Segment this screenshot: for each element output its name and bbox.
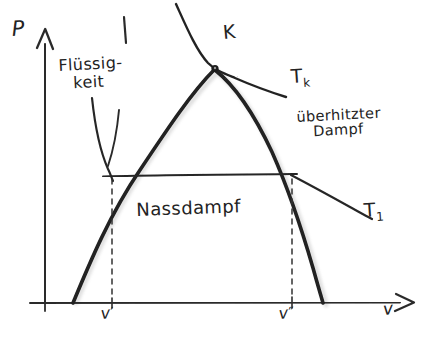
liquid-label-pointer xyxy=(108,17,126,166)
region-label-liquid: Flüssig- keit xyxy=(58,55,124,93)
isotherm-label-tk-subscript: k xyxy=(303,75,311,89)
saturated-vapor-line xyxy=(215,70,323,303)
isotherm-label-t1-subscript: 1 xyxy=(376,209,385,224)
y-axis-label: P xyxy=(11,17,26,40)
y-axis xyxy=(37,29,53,303)
pv-diagram: P v Flüssig- keit K Tk überhitzter Dampf… xyxy=(0,0,424,350)
isotherm-horizontal-segment xyxy=(103,174,297,177)
region-label-wet-steam: Nassdampf xyxy=(136,196,241,219)
region-label-liquid-line2: keit xyxy=(73,73,124,93)
region-label-superheated-vapor: überhitzter Dampf xyxy=(296,106,382,141)
pv-diagram-canvas xyxy=(0,0,424,350)
isotherm-label-t1-symbol: T xyxy=(363,198,377,221)
x-axis xyxy=(30,294,414,311)
isotherm-vapor-branch xyxy=(291,175,372,219)
critical-point-label: K xyxy=(222,21,237,42)
isotherm-label-t1: T1 xyxy=(363,199,385,225)
liquid-tick-mark xyxy=(124,17,126,43)
critical-point-marker xyxy=(211,65,218,72)
tick-label-v-double-prime: v″ xyxy=(278,304,296,323)
tick-label-v-prime: v′ xyxy=(100,305,115,323)
isotherm-liquid-branch xyxy=(92,98,113,181)
isotherm-label-tk: Tk xyxy=(290,65,311,91)
isotherm-label-tk-symbol: T xyxy=(290,64,304,87)
x-axis-label: v xyxy=(382,299,395,318)
saturated-liquid-line xyxy=(73,70,214,303)
vapor-dome-curve xyxy=(73,70,323,303)
